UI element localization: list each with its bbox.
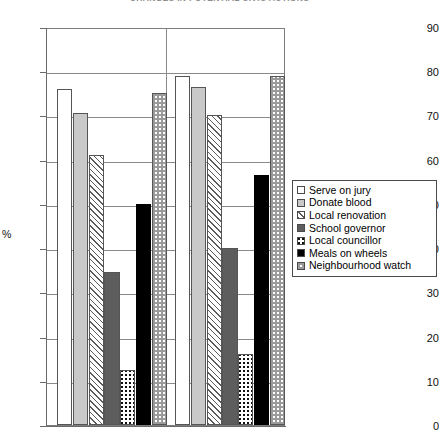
y-tick-label: 70 — [401, 111, 439, 122]
legend: Serve on juryDonate bloodLocal renovatio… — [292, 180, 437, 277]
bar-neighbourhood-watch-g1 — [152, 93, 167, 425]
y-tick-label: 0 — [401, 421, 439, 432]
solid-black-icon — [297, 249, 305, 257]
bar-donate-blood-g1 — [73, 113, 88, 425]
empty-icon — [297, 186, 305, 194]
bar-meals-on-wheels-g2 — [254, 175, 269, 425]
y-tick-mark — [40, 116, 46, 117]
bar-donate-blood-g2 — [191, 87, 206, 425]
y-tick-mark — [40, 205, 46, 206]
bar-local-councillor-g2 — [238, 354, 253, 425]
y-tick-mark — [40, 249, 46, 250]
legend-item[interactable]: Serve on jury — [297, 184, 432, 197]
bar-serve-on-jury-g1 — [57, 89, 72, 425]
y-tick-mark — [40, 72, 46, 73]
legend-label: Local renovation — [309, 210, 386, 221]
y-tick-label: 10 — [401, 377, 439, 388]
bar-serve-on-jury-g2 — [175, 76, 190, 425]
bar-neighbourhood-watch-g2 — [270, 76, 285, 425]
bar-local-renovation-g2 — [207, 115, 222, 425]
x-axis-line — [46, 426, 286, 427]
bar-chart: CHANGES IN POTENTIAL CIVIC ACTIONS 90807… — [0, 0, 439, 436]
dark-gray-icon — [297, 224, 305, 232]
bar-local-councillor-g1 — [120, 370, 135, 425]
chart-title: CHANGES IN POTENTIAL CIVIC ACTIONS — [0, 0, 439, 5]
legend-item[interactable]: Neighbourhood watch — [297, 260, 432, 273]
y-tick-mark — [40, 161, 46, 162]
y-axis-line — [46, 28, 47, 427]
legend-item[interactable]: Meals on wheels — [297, 247, 432, 260]
legend-item[interactable]: Local councillor — [297, 234, 432, 247]
y-tick-mark — [40, 426, 46, 427]
y-tick-label: 30 — [401, 288, 439, 299]
dark-checker-icon — [297, 237, 305, 245]
y-tick-label: 90 — [401, 23, 439, 34]
legend-label: Local councillor — [309, 235, 381, 246]
legend-label: School governor — [309, 223, 385, 234]
y-tick-mark — [40, 382, 46, 383]
y-tick-label: 20 — [401, 333, 439, 344]
bar-school-governor-g2 — [222, 248, 237, 425]
y-tick-mark — [40, 28, 46, 29]
legend-item[interactable]: Donate blood — [297, 197, 432, 210]
y-tick-mark — [40, 338, 46, 339]
legend-item[interactable]: Local renovation — [297, 209, 432, 222]
legend-label: Serve on jury — [309, 185, 371, 196]
legend-label: Meals on wheels — [309, 248, 387, 259]
y-tick-mark — [40, 293, 46, 294]
bar-school-governor-g1 — [104, 272, 119, 425]
bar-meals-on-wheels-g1 — [136, 204, 151, 425]
diagonal-hatch-icon — [297, 211, 305, 219]
y-tick-label: 60 — [401, 156, 439, 167]
plot-area — [46, 28, 285, 426]
y-axis-title: % — [2, 228, 11, 240]
legend-label: Neighbourhood watch — [309, 260, 411, 271]
y-tick-label: 80 — [401, 67, 439, 78]
legend-label: Donate blood — [309, 197, 371, 208]
light-checker-icon — [297, 262, 305, 270]
legend-item[interactable]: School governor — [297, 222, 432, 235]
bar-local-renovation-g1 — [89, 155, 104, 425]
light-gray-icon — [297, 199, 305, 207]
